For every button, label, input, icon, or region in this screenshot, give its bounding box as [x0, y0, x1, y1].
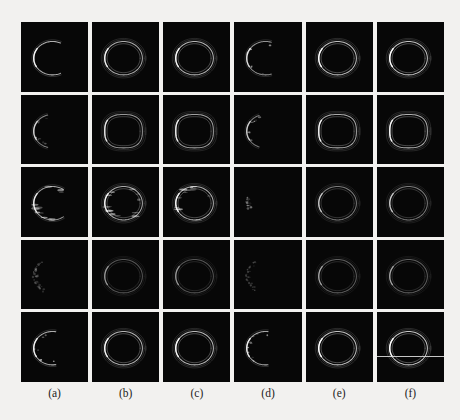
contour-stroke [105, 332, 143, 365]
panel-image [163, 95, 230, 165]
noise-blob [250, 342, 252, 344]
contour-stroke [247, 121, 250, 139]
figure-panel-grid: (a)(b)(c)(d)(e)(f) [0, 0, 460, 420]
noise-blob [35, 212, 41, 214]
contour-stroke [246, 40, 273, 77]
noise-blob [190, 188, 197, 190]
noise-blob [195, 220, 203, 221]
contour-stroke [107, 44, 140, 73]
contour-stroke [392, 44, 425, 73]
noise-blob [177, 208, 184, 210]
contour-stroke [318, 187, 356, 220]
contour-stroke [315, 256, 360, 296]
contour-stroke [178, 44, 211, 73]
noise-blob [252, 336, 255, 337]
speckle-point [246, 274, 248, 276]
noise-blob [248, 268, 250, 270]
panel-cell [163, 240, 230, 310]
noise-blob [136, 194, 141, 195]
noise-blob [251, 65, 253, 67]
noise-blob [248, 352, 250, 354]
panel-cell [21, 95, 88, 165]
contour-stroke [174, 258, 215, 295]
noise-blob [183, 192, 189, 193]
panel-image [234, 95, 301, 165]
contour-stroke [392, 334, 425, 363]
contour-stroke [388, 330, 429, 367]
contour-stroke [32, 330, 56, 367]
contour-stroke [390, 114, 428, 147]
contour-stroke [247, 41, 271, 74]
contour-stroke [173, 256, 218, 296]
noise-blob [42, 288, 45, 290]
contour-stroke [101, 329, 146, 369]
speckle-point [246, 278, 248, 280]
noise-blob [35, 276, 37, 277]
noise-blob [129, 189, 136, 190]
contour-stroke [315, 329, 360, 369]
speckle-point [32, 276, 34, 279]
noise-blob [37, 350, 39, 351]
panel-cell [234, 167, 301, 237]
contour-stroke [176, 114, 214, 147]
contour-stroke [318, 259, 356, 292]
noise-blob [247, 54, 249, 55]
panel-cell [21, 22, 88, 92]
noise-blob [37, 274, 39, 276]
noise-blob [207, 195, 211, 196]
panel-image [163, 22, 230, 92]
noise-blob [48, 220, 55, 221]
speckle-point [36, 266, 37, 267]
panel-image [234, 240, 301, 310]
contour-stroke [176, 332, 214, 365]
column-label-0: (a) [21, 385, 88, 405]
contour-stroke [392, 189, 425, 218]
panel-image [21, 95, 88, 165]
contour-stroke [390, 266, 393, 284]
noise-blob [35, 136, 37, 138]
panel-image [21, 167, 88, 237]
panel-image [92, 95, 159, 165]
panel-cell [163, 312, 230, 382]
noise-blob [247, 199, 251, 201]
speckle-point [38, 286, 41, 289]
noise-blob [37, 282, 40, 283]
noise-blob [249, 270, 251, 271]
column-label-3: (d) [234, 385, 301, 405]
speckle-point [42, 290, 44, 292]
noise-blob [190, 186, 197, 188]
panel-image [21, 22, 88, 92]
noise-blob [40, 359, 42, 361]
noise-blob [33, 349, 35, 350]
speckle-point [247, 273, 248, 274]
contour-stroke [176, 259, 214, 292]
speckle-point [41, 261, 43, 263]
column-label-row: (a)(b)(c)(d)(e)(f) [21, 385, 444, 405]
panel-cell [306, 240, 373, 310]
panel-image [234, 167, 301, 237]
panel-image [234, 22, 301, 92]
contour-stroke [34, 187, 64, 220]
contour-stroke [103, 40, 144, 77]
speckle-point [250, 284, 252, 286]
noise-blob [36, 208, 41, 210]
speckle-point [35, 267, 38, 270]
noise-blob [132, 215, 137, 217]
panel-image [92, 22, 159, 92]
contour-stroke [318, 41, 356, 74]
panel-image [92, 167, 159, 237]
contour-stroke [34, 339, 37, 357]
noise-blob [132, 212, 140, 213]
column-label-5: (f) [377, 385, 444, 405]
noise-blob [44, 142, 47, 144]
contour-stroke [390, 41, 428, 74]
contour-stroke [34, 41, 61, 74]
panel-image [163, 312, 230, 382]
contour-stroke [317, 185, 358, 222]
speckle-point [250, 265, 252, 267]
panel-cell [377, 312, 444, 382]
contour-stroke [321, 189, 354, 218]
contour-stroke [386, 184, 431, 224]
panel-cell [21, 240, 88, 310]
contour-stroke [174, 330, 215, 367]
